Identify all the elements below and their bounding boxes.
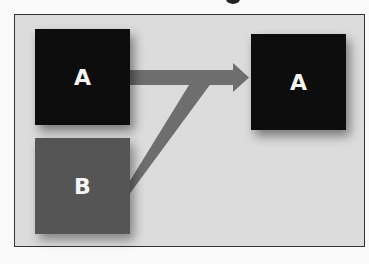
box-source-b: B xyxy=(35,138,130,234)
box-target-a: A xyxy=(251,34,346,130)
box-label: B xyxy=(74,174,91,199)
diagonal-connector-b-to-a xyxy=(128,72,212,196)
box-label: A xyxy=(290,70,307,95)
box-label: A xyxy=(74,65,91,90)
box-source-a: A xyxy=(35,29,130,125)
